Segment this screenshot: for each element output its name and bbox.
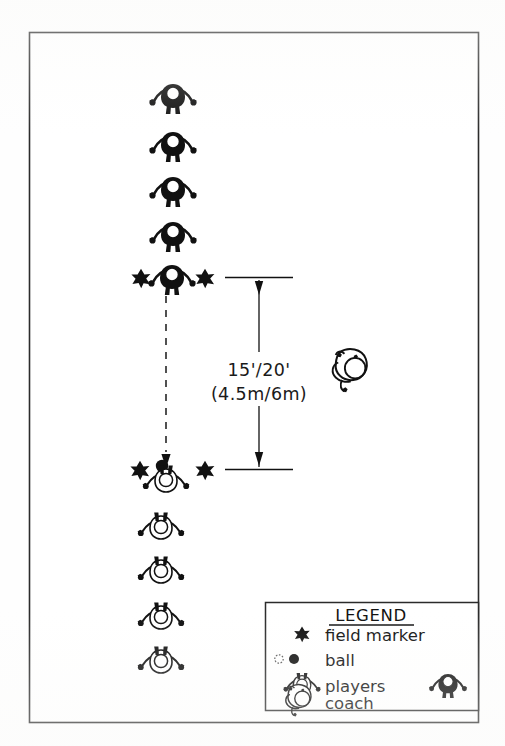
legend-label-field-marker: field marker	[325, 626, 425, 645]
distance-label-metric: (4.5m/6m)	[211, 384, 307, 404]
legend-label-ball: ball	[325, 651, 355, 670]
legend: LEGEND field marker ball	[266, 603, 479, 717]
diagram-page: 15'/20' (4.5m/6m) LEGEND field marker	[0, 0, 505, 746]
legend-label-coach: coach	[325, 694, 374, 713]
legend-title: LEGEND	[335, 606, 406, 625]
drill-diagram: 15'/20' (4.5m/6m) LEGEND field marker	[0, 0, 505, 746]
distance-label-imperial: 15'/20'	[228, 360, 291, 380]
